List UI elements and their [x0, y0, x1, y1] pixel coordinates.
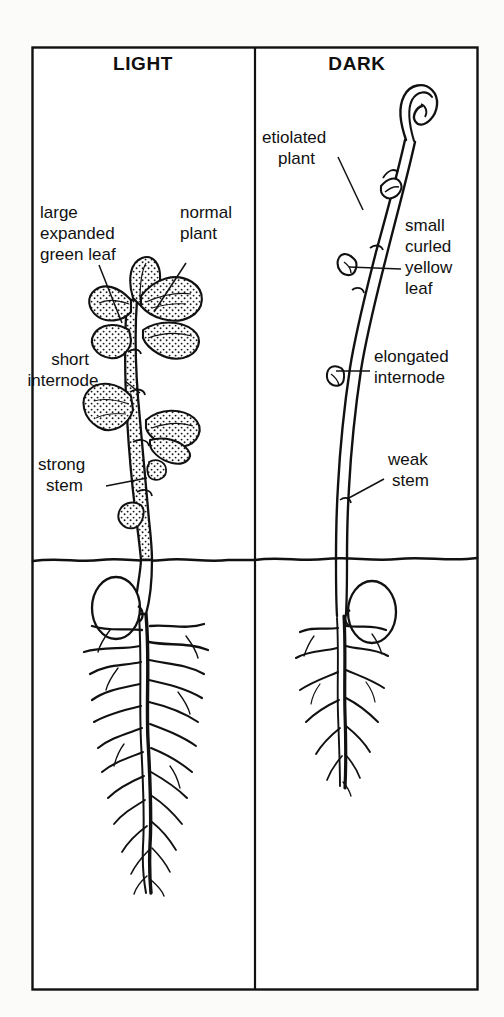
light-leaflet-base-2 — [147, 460, 166, 480]
etiolation-comparison-figure: LIGHT DARK large expanded green leaf nor… — [0, 0, 504, 1017]
dark-hypocotyl-left — [336, 560, 337, 616]
soil-line-right — [255, 558, 477, 560]
light-leaflet-base — [118, 503, 143, 529]
panel-header-light: LIGHT — [113, 53, 173, 74]
dark-scale-leaf-lower — [327, 366, 344, 386]
dark-taproot — [344, 616, 346, 788]
dark-hypocotyl-right — [346, 560, 347, 614]
panel-header-dark: DARK — [328, 53, 385, 74]
